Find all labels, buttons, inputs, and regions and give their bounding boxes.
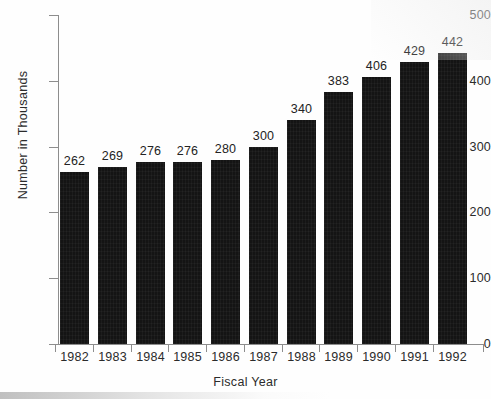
y-tick-mark — [49, 81, 58, 82]
scan-edge-shadow — [0, 392, 330, 399]
x-axis-title: Fiscal Year — [0, 375, 491, 389]
y-axis-line — [58, 15, 59, 345]
bar-chart: 0100200300400500 19821983198419851986198… — [0, 0, 491, 399]
bar-value-label: 276 — [130, 144, 171, 158]
bar — [211, 160, 240, 344]
bar — [324, 92, 353, 344]
y-tick-mark — [49, 344, 58, 345]
bar — [173, 162, 202, 344]
bar-value-label: 442 — [432, 35, 473, 49]
bar — [438, 53, 467, 344]
bar-value-label: 429 — [394, 44, 435, 58]
bar-value-label: 262 — [54, 154, 95, 168]
y-tick-mark — [49, 212, 58, 213]
bar-value-label: 269 — [92, 149, 133, 163]
bar-value-label: 340 — [281, 102, 322, 116]
bar-value-label: 276 — [167, 144, 208, 158]
bar — [362, 77, 391, 344]
y-axis-title: Number in Thousands — [16, 60, 30, 210]
bar — [249, 147, 278, 344]
bar — [136, 162, 165, 344]
bar-value-label: 280 — [205, 142, 246, 156]
bar — [287, 120, 316, 344]
y-tick-mark — [49, 278, 58, 279]
y-tick-mark — [49, 15, 58, 16]
x-axis-line — [58, 344, 483, 345]
y-tick-mark — [49, 147, 58, 148]
bar-value-label: 300 — [243, 129, 284, 143]
x-tick-mark — [483, 344, 484, 352]
bar — [98, 167, 127, 344]
bar — [60, 172, 89, 344]
x-tick-label: 1992 — [430, 350, 475, 364]
bar — [400, 62, 429, 344]
y-tick-label: 500 — [447, 8, 491, 22]
bar-value-label: 406 — [356, 59, 397, 73]
bar-value-label: 383 — [318, 74, 359, 88]
